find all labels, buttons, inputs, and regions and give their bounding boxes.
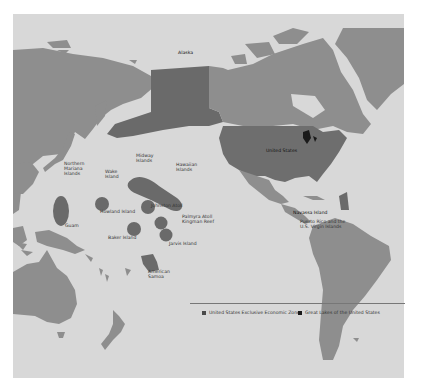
russia-landmass bbox=[13, 48, 155, 164]
falklands bbox=[353, 338, 359, 342]
legend-label-great-lakes: Great Lakes of the United States bbox=[305, 310, 380, 315]
legend-divider bbox=[190, 303, 405, 304]
palmyra-kingman-eez bbox=[155, 217, 168, 230]
tasmania bbox=[57, 332, 65, 338]
label-alaska: Alaska bbox=[178, 50, 193, 55]
cuba bbox=[303, 196, 325, 200]
label-hawaiian-islands: Hawaiian Islands bbox=[176, 162, 197, 172]
label-palmyra-kingman: Palmyra Atoll Kingman Reef bbox=[182, 214, 214, 224]
solomon-vanuatu bbox=[85, 254, 131, 282]
south-america bbox=[309, 218, 391, 360]
label-guam: Guam bbox=[65, 223, 79, 228]
label-midway-islands: Midway Islands bbox=[136, 153, 153, 163]
united-states bbox=[219, 126, 347, 182]
label-puerto-rico: Puerto Rico and the U.S. Virgin Islands bbox=[300, 219, 345, 229]
howland-baker-eez bbox=[127, 222, 141, 236]
label-wake-island: Wake Island bbox=[105, 169, 119, 179]
label-johnston-atoll: Johnston Atoll bbox=[151, 203, 183, 208]
legend-label-eez: United States Exclusive Economic Zone bbox=[209, 310, 300, 315]
map-canvas[interactable]: Alaska United States Northern Mariana Is… bbox=[13, 14, 404, 378]
puerto-rico-eez bbox=[339, 192, 349, 210]
new-guinea bbox=[35, 230, 85, 254]
east-asia-coast bbox=[13, 162, 39, 194]
label-northern-mariana-islands: Northern Mariana Islands bbox=[64, 161, 84, 177]
new-zealand bbox=[101, 310, 125, 350]
jarvis-island-eez bbox=[160, 229, 173, 242]
australia bbox=[13, 250, 77, 324]
label-baker-island: Baker Island bbox=[108, 235, 136, 240]
label-howland-island: Howland Island bbox=[100, 209, 135, 214]
legend-swatch-great-lakes bbox=[298, 311, 302, 315]
northern-mariana-guam-eez bbox=[53, 196, 69, 226]
legend-swatch-eez bbox=[202, 311, 206, 315]
label-navassa-island: Navassa Island bbox=[293, 210, 328, 215]
legend-item-eez: United States Exclusive Economic Zone bbox=[202, 310, 300, 315]
indonesia-islands bbox=[15, 242, 33, 256]
label-jarvis-island: Jarvis Island bbox=[169, 241, 197, 246]
label-american-samoa: American Samoa bbox=[148, 269, 170, 279]
southeast-asia bbox=[13, 192, 27, 246]
map-graphic bbox=[13, 14, 404, 378]
legend-item-great-lakes: Great Lakes of the United States bbox=[298, 310, 380, 315]
label-united-states: United States bbox=[266, 148, 297, 153]
